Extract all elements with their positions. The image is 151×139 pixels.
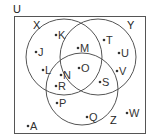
element-label: S: [102, 76, 109, 88]
element-dot: [118, 52, 121, 55]
element-dot: [56, 102, 59, 105]
element-label: P: [59, 97, 66, 109]
element-dot: [103, 39, 106, 42]
element-a: A: [27, 120, 38, 132]
element-label: R: [58, 80, 66, 92]
element-dot: [42, 69, 45, 72]
element-t: T: [103, 34, 113, 46]
element-m: M: [77, 42, 89, 54]
element-r: R: [55, 80, 66, 92]
element-label: T: [106, 34, 113, 46]
set-z-label: Z: [110, 114, 117, 126]
element-label: M: [80, 42, 89, 54]
element-label: K: [58, 29, 66, 41]
element-k: K: [55, 29, 66, 41]
element-dot: [35, 51, 38, 54]
element-label: J: [38, 46, 44, 58]
element-dot: [99, 81, 102, 84]
element-label: A: [30, 120, 38, 132]
set-x-label: X: [33, 19, 41, 31]
element-u: U: [118, 47, 129, 59]
element-label: U: [121, 47, 129, 59]
universe-label: U: [13, 3, 21, 15]
venn-diagram: U X Y Z K J L M T U V N O: [0, 0, 151, 139]
element-p: P: [56, 97, 67, 109]
element-j: J: [35, 46, 44, 58]
element-q: Q: [86, 111, 98, 123]
element-v: V: [116, 65, 127, 77]
element-label: V: [119, 65, 127, 77]
element-label: L: [45, 64, 51, 76]
element-label: W: [129, 107, 140, 119]
element-w: W: [126, 107, 140, 119]
element-label: Q: [89, 111, 98, 123]
element-dot: [86, 116, 89, 119]
element-dot: [116, 70, 119, 73]
element-dot: [77, 47, 80, 50]
element-l: L: [42, 64, 51, 76]
element-dot: [55, 85, 58, 88]
element-s: S: [99, 76, 110, 88]
element-dot: [27, 125, 30, 128]
element-dot: [126, 112, 129, 115]
element-dot: [60, 74, 63, 77]
element-label: O: [81, 62, 90, 74]
set-y-label: Y: [127, 19, 135, 31]
element-dot: [78, 67, 81, 70]
element-dot: [55, 34, 58, 37]
element-o: O: [78, 62, 90, 74]
